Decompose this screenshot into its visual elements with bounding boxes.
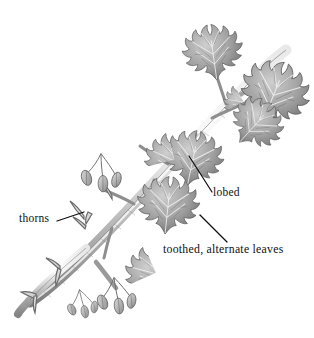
callout-label-toothed-alternate-leaves: toothed, alternate leaves [163,243,284,256]
callout-label-lobed: lobed [213,186,240,199]
leader-line-thorns [57,212,84,221]
leader-line-toothed [200,215,227,242]
plant-illustration [0,0,314,338]
leaves-group [117,21,314,310]
callout-label-thorns: thorns [19,212,49,225]
botanical-figure: thorns lobed toothed, alternate leaves [0,0,314,338]
